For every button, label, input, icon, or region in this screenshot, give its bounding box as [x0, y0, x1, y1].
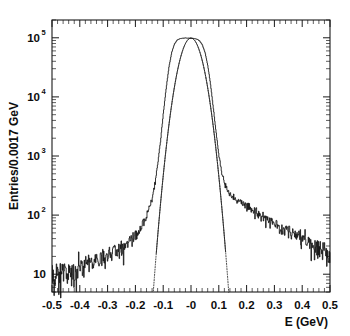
x-tick-label: 0.4 — [294, 299, 311, 311]
x-tick-label: -0.2 — [125, 299, 145, 311]
x-tick-label: -0.4 — [70, 299, 90, 311]
y-axis-title: Entries/0.0017 GeV — [7, 102, 21, 210]
energy-residual-log-plot: -0.5-0.4-0.3-0.2-0.1-00.10.20.30.40.5 10… — [0, 0, 350, 336]
y-tick-label-exponent: 2 — [42, 205, 46, 214]
y-tick-label: 10 — [33, 268, 46, 280]
x-axis-title: E (GeV) — [285, 315, 328, 329]
x-tick-label: -0.5 — [42, 299, 62, 311]
x-tick-label: -0.3 — [98, 299, 118, 311]
x-tick-label: 0.5 — [322, 299, 339, 311]
y-tick-label-base: 10 — [27, 209, 40, 221]
x-tick-label: 0.2 — [239, 299, 255, 311]
y-tick-label-exponent: 3 — [42, 146, 46, 155]
chart-figure: -0.5-0.4-0.3-0.2-0.1-00.10.20.30.40.5 10… — [0, 0, 350, 336]
y-tick-label-base: 10 — [27, 150, 40, 162]
x-tick-label: -0.1 — [153, 299, 173, 311]
y-tick-label-base: 10 — [27, 32, 40, 44]
y-tick-label-exponent: 5 — [42, 28, 46, 37]
x-tick-label: 0.1 — [211, 299, 228, 311]
x-axis-tick-labels: -0.5-0.4-0.3-0.2-0.1-00.10.20.30.40.5 — [42, 299, 339, 311]
y-tick-label-base: 10 — [27, 91, 40, 103]
x-tick-label: -0 — [186, 299, 196, 311]
y-tick-label-base: 10 — [33, 268, 46, 280]
x-tick-label: 0.3 — [266, 299, 282, 311]
